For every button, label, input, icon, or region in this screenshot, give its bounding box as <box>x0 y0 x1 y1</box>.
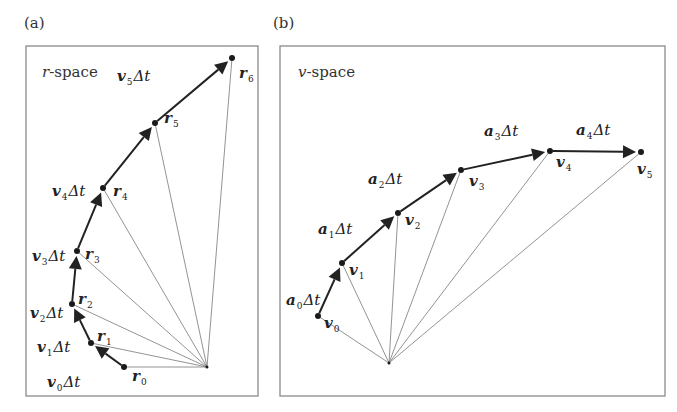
panel-b-space-label: v-space <box>298 63 355 81</box>
panel-b: (b) v-space v0v1v2v3v4v5a0Δta1Δta2Δta3Δt… <box>273 14 665 396</box>
point-label-b-0: v0 <box>324 314 340 334</box>
ray-a-2 <box>72 304 207 367</box>
step-arrow-a-0 <box>106 354 122 366</box>
panel-a: (a) r-space r0r1r2r3r4r5r6v0Δtv1Δtv2Δtv3… <box>24 14 258 396</box>
step-label-b-1: a1Δt <box>318 220 353 240</box>
figure: (a) r-space r0r1r2r3r4r5r6v0Δtv1Δtv2Δtv3… <box>0 0 677 412</box>
point-b-3 <box>458 167 464 173</box>
point-b-4 <box>547 148 553 154</box>
step-arrow-b-3 <box>464 155 532 170</box>
point-label-a-6: r6 <box>239 64 254 84</box>
origin-b <box>388 362 391 365</box>
ray-a-4 <box>103 188 207 367</box>
step-arrow-a-4 <box>105 137 144 186</box>
ray-a-5 <box>155 123 207 367</box>
arrowhead-b-3 <box>531 148 545 161</box>
point-a-0 <box>121 364 127 370</box>
arrowhead-a-2 <box>69 256 82 270</box>
step-label-b-4: a4Δt <box>576 121 611 141</box>
ray-a-3 <box>77 251 207 367</box>
point-label-b-1: v1 <box>349 261 364 281</box>
arrowhead-a-4 <box>139 127 152 141</box>
point-label-b-4: v4 <box>556 153 572 173</box>
panel-a-space-label: r-space <box>42 63 98 81</box>
step-label-a-3: v3Δt <box>32 247 66 267</box>
step-label-a-4: v4Δt <box>52 182 86 202</box>
point-b-1 <box>339 260 345 266</box>
step-label-a-2: v2Δt <box>30 304 64 324</box>
step-arrow-a-1 <box>80 320 90 340</box>
step-arrow-a-3 <box>78 205 96 249</box>
step-arrow-b-0 <box>319 279 334 313</box>
step-label-a-1: v1Δt <box>37 338 71 358</box>
point-label-a-2: r2 <box>78 290 93 310</box>
ray-b-2 <box>389 213 398 363</box>
point-b-0 <box>315 313 321 319</box>
point-a-5 <box>152 120 158 126</box>
point-label-b-5: v5 <box>637 160 653 180</box>
point-label-a-0: r0 <box>132 367 147 387</box>
panel-b-label: (b) <box>273 14 294 32</box>
point-a-6 <box>229 55 235 61</box>
point-label-a-5: r5 <box>164 109 179 129</box>
point-label-a-1: r1 <box>97 327 112 347</box>
step-arrow-b-4 <box>553 151 623 152</box>
step-arrow-a-2 <box>72 269 75 301</box>
step-arrow-b-2 <box>400 180 446 211</box>
step-label-b-2: a2Δt <box>368 170 403 190</box>
arrowhead-b-2 <box>442 173 456 186</box>
arrowhead-b-4 <box>623 145 636 158</box>
step-label-a-5: v5Δt <box>117 67 151 87</box>
point-label-a-3: r3 <box>85 245 100 265</box>
point-label-b-2: v2 <box>405 211 420 231</box>
point-a-2 <box>69 301 75 307</box>
ray-a-6 <box>207 58 232 367</box>
point-a-4 <box>100 185 106 191</box>
step-label-b-3: a3Δt <box>484 122 519 142</box>
origin-a <box>206 366 209 369</box>
panel-a-label: (a) <box>24 14 45 32</box>
point-b-5 <box>638 149 644 155</box>
ray-b-3 <box>389 170 461 363</box>
point-a-1 <box>88 340 94 346</box>
point-label-a-4: r4 <box>113 182 128 202</box>
point-b-2 <box>395 210 401 216</box>
ray-b-5 <box>389 152 641 363</box>
step-label-a-0: v0Δt <box>47 373 81 393</box>
point-label-b-3: v3 <box>469 172 485 192</box>
point-a-3 <box>74 248 80 254</box>
arrowhead-a-0 <box>95 346 109 359</box>
step-label-b-0: a0Δt <box>286 291 321 311</box>
